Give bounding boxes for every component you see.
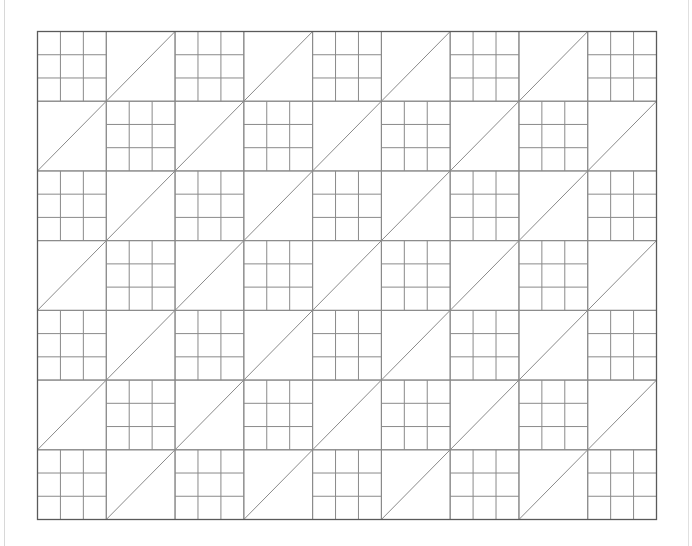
triangle-diagonal-seam	[381, 32, 450, 102]
block-outline	[175, 310, 244, 380]
nine-patch-block	[244, 241, 313, 311]
half-square-triangle-block	[381, 171, 450, 241]
block-outline	[175, 450, 244, 520]
triangle-diagonal-seam	[588, 101, 657, 171]
nine-patch-block	[244, 380, 313, 450]
quilt-blocks	[38, 32, 657, 520]
nine-patch-block	[175, 310, 244, 380]
block-outline	[38, 310, 107, 380]
nine-patch-block	[175, 32, 244, 102]
half-square-triangle-block	[450, 241, 519, 311]
nine-patch-block	[175, 450, 244, 520]
half-square-triangle-block	[106, 32, 175, 102]
block-outline	[106, 380, 175, 450]
triangle-diagonal-seam	[519, 310, 588, 380]
half-square-triangle-block	[381, 450, 450, 520]
triangle-diagonal-seam	[519, 32, 588, 102]
block-outline	[244, 101, 313, 171]
block-outline	[175, 32, 244, 102]
block-outline	[588, 310, 657, 380]
nine-patch-block	[381, 380, 450, 450]
block-outline	[244, 241, 313, 311]
nine-patch-block	[106, 241, 175, 311]
half-square-triangle-block	[313, 380, 382, 450]
half-square-triangle-block	[588, 241, 657, 311]
triangle-diagonal-seam	[450, 241, 519, 311]
triangle-diagonal-seam	[381, 450, 450, 520]
half-square-triangle-block	[588, 101, 657, 171]
block-outline	[38, 171, 107, 241]
block-outline	[519, 101, 588, 171]
nine-patch-block	[313, 310, 382, 380]
nine-patch-block	[313, 32, 382, 102]
triangle-diagonal-seam	[588, 380, 657, 450]
half-square-triangle-block	[244, 32, 313, 102]
nine-patch-block	[588, 450, 657, 520]
half-square-triangle-block	[519, 310, 588, 380]
half-square-triangle-block	[381, 310, 450, 380]
nine-patch-block	[519, 380, 588, 450]
triangle-diagonal-seam	[450, 101, 519, 171]
block-outline	[450, 310, 519, 380]
block-outline	[381, 380, 450, 450]
block-outline	[588, 171, 657, 241]
nine-patch-block	[244, 101, 313, 171]
block-outline	[381, 241, 450, 311]
block-outline	[313, 171, 382, 241]
triangle-diagonal-seam	[244, 310, 313, 380]
triangle-diagonal-seam	[313, 380, 382, 450]
block-outline	[106, 241, 175, 311]
half-square-triangle-block	[38, 101, 107, 171]
block-outline	[244, 380, 313, 450]
block-outline	[313, 310, 382, 380]
nine-patch-block	[106, 101, 175, 171]
triangle-diagonal-seam	[38, 380, 107, 450]
nine-patch-block	[519, 101, 588, 171]
triangle-diagonal-seam	[313, 101, 382, 171]
triangle-diagonal-seam	[588, 241, 657, 311]
triangle-diagonal-seam	[519, 171, 588, 241]
block-outline	[588, 32, 657, 102]
half-square-triangle-block	[106, 450, 175, 520]
quilt-diagram	[0, 0, 692, 546]
triangle-diagonal-seam	[244, 32, 313, 102]
nine-patch-block	[38, 310, 107, 380]
nine-patch-block	[588, 171, 657, 241]
nine-patch-block	[450, 450, 519, 520]
triangle-diagonal-seam	[175, 241, 244, 311]
triangle-diagonal-seam	[106, 32, 175, 102]
block-outline	[313, 450, 382, 520]
nine-patch-block	[313, 171, 382, 241]
nine-patch-block	[450, 32, 519, 102]
half-square-triangle-block	[519, 171, 588, 241]
half-square-triangle-block	[106, 171, 175, 241]
half-square-triangle-block	[244, 450, 313, 520]
triangle-diagonal-seam	[381, 310, 450, 380]
half-square-triangle-block	[450, 101, 519, 171]
half-square-triangle-block	[244, 171, 313, 241]
nine-patch-block	[381, 101, 450, 171]
block-outline	[106, 101, 175, 171]
half-square-triangle-block	[106, 310, 175, 380]
block-outline	[519, 241, 588, 311]
block-outline	[38, 450, 107, 520]
nine-patch-block	[38, 450, 107, 520]
block-outline	[519, 380, 588, 450]
half-square-triangle-block	[519, 450, 588, 520]
nine-patch-block	[519, 241, 588, 311]
nine-patch-block	[313, 450, 382, 520]
triangle-diagonal-seam	[106, 171, 175, 241]
nine-patch-block	[175, 171, 244, 241]
triangle-diagonal-seam	[106, 310, 175, 380]
nine-patch-block	[588, 310, 657, 380]
nine-patch-block	[106, 380, 175, 450]
block-outline	[313, 32, 382, 102]
nine-patch-block	[38, 32, 107, 102]
triangle-diagonal-seam	[244, 450, 313, 520]
half-square-triangle-block	[450, 380, 519, 450]
triangle-diagonal-seam	[381, 171, 450, 241]
nine-patch-block	[381, 241, 450, 311]
half-square-triangle-block	[588, 380, 657, 450]
triangle-diagonal-seam	[519, 450, 588, 520]
block-outline	[38, 32, 107, 102]
